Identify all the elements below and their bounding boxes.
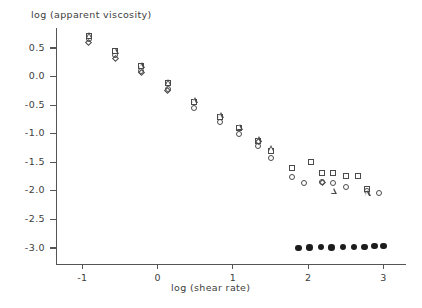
y-tick-label: -3.0	[11, 242, 45, 253]
data-point-triangle	[192, 97, 198, 103]
y-tick-mark	[50, 133, 56, 134]
data-point-filled-circle	[371, 243, 377, 249]
x-tick-label: 2	[295, 272, 321, 283]
data-point-triangle	[165, 79, 171, 85]
data-point-square	[289, 165, 295, 171]
x-axis-line	[56, 264, 406, 265]
data-point-triangle	[365, 190, 371, 196]
data-point-square	[308, 159, 314, 165]
x-tick-label: -1	[69, 272, 95, 283]
data-point-triangle	[139, 62, 145, 68]
data-point-filled-circle	[295, 245, 301, 251]
y-tick-mark	[50, 219, 56, 220]
x-tick-mark	[157, 264, 158, 269]
data-point-square	[330, 170, 336, 176]
data-point-filled-circle	[306, 244, 312, 250]
data-point-triangle	[237, 124, 243, 130]
data-point-circle	[343, 184, 349, 190]
data-point-triangle	[86, 32, 92, 38]
x-tick-mark	[383, 264, 384, 269]
data-point-circle	[289, 174, 295, 180]
y-axis-line	[56, 28, 57, 265]
x-tick-label: 1	[220, 272, 246, 283]
data-point-filled-circle	[328, 244, 334, 250]
data-point-square	[319, 170, 325, 176]
x-tick-mark	[308, 264, 309, 269]
data-point-filled-circle	[380, 243, 386, 249]
scatter-plot-figure: log (apparent viscosity) log (shear rate…	[0, 0, 422, 308]
data-point-triangle	[268, 145, 274, 151]
data-point-triangle	[218, 112, 224, 118]
data-point-circle	[268, 155, 274, 161]
data-point-triangle	[113, 48, 119, 54]
data-point-square	[355, 173, 361, 179]
y-tick-mark	[50, 190, 56, 191]
y-tick-mark	[50, 162, 56, 163]
x-tick-mark	[82, 264, 83, 269]
y-tick-mark	[50, 105, 56, 106]
y-tick-label: -2.5	[11, 213, 45, 224]
y-tick-label: 0.5	[11, 42, 45, 53]
data-point-circle	[236, 131, 242, 137]
data-point-circle	[217, 119, 223, 125]
data-point-filled-circle	[318, 244, 324, 250]
x-tick-label: 0	[145, 272, 171, 283]
data-point-filled-circle	[351, 244, 357, 250]
y-tick-label: 0.0	[11, 70, 45, 81]
x-tick-mark	[232, 264, 233, 269]
data-point-filled-circle	[361, 244, 367, 250]
y-tick-label: -0.5	[11, 99, 45, 110]
y-tick-label: -1.5	[11, 156, 45, 167]
data-point-diamond	[319, 179, 326, 186]
y-tick-mark	[50, 47, 56, 48]
data-point-circle	[191, 105, 197, 111]
y-tick-label: -2.0	[11, 184, 45, 195]
y-axis-title: log (apparent viscosity)	[31, 9, 152, 20]
y-tick-label: -1.0	[11, 127, 45, 138]
data-point-square	[343, 173, 349, 179]
y-tick-mark	[50, 76, 56, 77]
data-point-circle	[330, 180, 336, 186]
data-point-circle	[301, 180, 307, 186]
y-tick-mark	[50, 247, 56, 248]
x-tick-label: 3	[370, 272, 396, 283]
data-point-circle	[376, 190, 382, 196]
x-axis-title: log (shear rate)	[171, 282, 250, 293]
data-point-triangle	[331, 188, 337, 194]
data-point-filled-circle	[340, 244, 346, 250]
